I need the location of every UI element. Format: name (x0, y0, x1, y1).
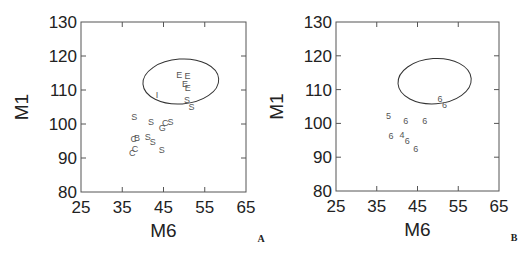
data-point-6: 6 (413, 144, 418, 154)
x-tick-label: 45 (408, 197, 427, 216)
x-tick-label: 55 (449, 197, 468, 216)
data-point-s: S (148, 117, 154, 127)
x-tick-label: 65 (237, 198, 256, 217)
chart-panel-b: 25354555658090100110120130M6M1B665666466 (266, 13, 518, 243)
x-tick-label: 35 (367, 197, 386, 216)
y-axis-label: M1 (266, 93, 287, 119)
y-tick-label: 120 (304, 47, 332, 66)
y-tick-label: 100 (304, 114, 332, 133)
data-point-6: 6 (422, 116, 427, 126)
x-tick-label: 55 (195, 198, 214, 217)
data-point-s: S (150, 137, 156, 147)
y-tick-label: 100 (49, 115, 77, 134)
y-axis-label: M1 (11, 94, 32, 120)
y-tick-label: 80 (58, 183, 77, 202)
figure: 25354555658090100110120130M6M1AEEEEISSSS… (0, 0, 529, 254)
data-point-b: B (134, 133, 140, 143)
plot-frame (81, 22, 246, 192)
data-point-s: S (189, 102, 195, 112)
y-tick-label: 90 (313, 148, 332, 167)
data-point-s: S (131, 112, 137, 122)
data-point-c: C (132, 144, 139, 154)
y-tick-label: 90 (58, 149, 77, 168)
confidence-ellipse (141, 56, 220, 106)
data-point-e: E (185, 83, 191, 93)
panel-label: B (511, 232, 518, 243)
data-point-5: 5 (386, 111, 391, 121)
data-point-6: 6 (405, 136, 410, 146)
x-tick-label: 35 (113, 198, 132, 217)
x-tick-label: 65 (490, 197, 509, 216)
y-tick-label: 120 (49, 47, 77, 66)
y-tick-label: 80 (313, 182, 332, 201)
data-point-6: 6 (442, 100, 447, 110)
y-tick-label: 110 (305, 81, 332, 100)
data-point-s: S (168, 117, 174, 127)
data-point-6: 6 (403, 116, 408, 126)
data-point-6: 6 (389, 131, 394, 141)
x-axis-label: M6 (150, 220, 176, 241)
y-tick-label: 130 (304, 13, 332, 32)
scatter-figure: 25354555658090100110120130M6M1AEEEEISSSS… (0, 0, 529, 254)
y-tick-label: 110 (50, 81, 77, 100)
data-point-s: S (159, 145, 165, 155)
confidence-ellipse (396, 56, 472, 106)
chart-panel-a: 25354555658090100110120130M6M1AEEEEISSSS… (11, 13, 265, 244)
x-tick-label: 45 (154, 198, 173, 217)
panel-label: A (257, 233, 265, 244)
plot-frame (336, 22, 499, 191)
data-point-i: I (156, 90, 159, 100)
data-point-4: 4 (400, 130, 405, 140)
x-axis-label: M6 (404, 219, 430, 240)
y-tick-label: 130 (49, 13, 77, 32)
